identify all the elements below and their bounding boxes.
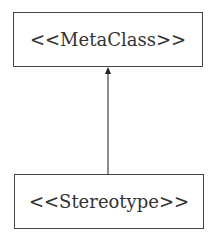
- stereotype-node: <<Stereotype>>: [14, 174, 204, 229]
- arrowhead-icon: [105, 67, 111, 74]
- stereotype-label: <<Stereotype>>: [29, 191, 189, 212]
